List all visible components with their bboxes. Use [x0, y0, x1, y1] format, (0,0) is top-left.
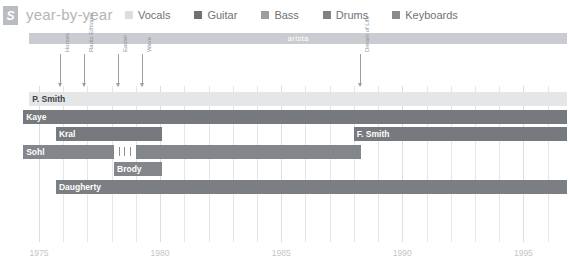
album-marker-label: Dream of Life — [364, 16, 370, 52]
album-marker-label: Radio Ethiopia — [88, 13, 94, 52]
legend-label: Bass — [274, 9, 298, 21]
bar-label-kral: Kral — [56, 127, 79, 141]
letter-s-badge-icon: S — [3, 6, 18, 25]
timeline-bar[interactable] — [29, 92, 567, 106]
timeline-bar[interactable] — [56, 180, 567, 194]
bar-label-daugherty: Daugherty — [56, 180, 104, 194]
album-marker-line — [142, 54, 143, 86]
axis-tick-label: 1990 — [393, 248, 412, 258]
bar-gap-ticks — [114, 145, 136, 159]
album-marker-line — [60, 54, 61, 86]
tick-mark-icon — [124, 147, 125, 156]
axis-tick-label: 1985 — [272, 248, 291, 258]
album-marker-line — [360, 54, 361, 86]
axis-tick-label: 1995 — [514, 248, 533, 258]
arrow-down-icon — [358, 83, 362, 87]
bar-label-brody: Brody — [114, 162, 145, 176]
axis-tick-label: 1980 — [151, 248, 170, 258]
album-marker-line — [118, 54, 119, 86]
legend-swatch-icon — [323, 11, 331, 19]
bar-label-kaye: Kaye — [23, 110, 49, 124]
arrow-down-icon — [58, 83, 62, 87]
label-band-arista: arista — [29, 33, 567, 44]
page-title: year-by-year — [26, 6, 113, 23]
tick-mark-icon — [130, 147, 131, 156]
legend-item-drums[interactable]: Drums — [323, 9, 368, 21]
legend-swatch-icon — [194, 11, 202, 19]
timeline-bar[interactable] — [136, 145, 361, 159]
tick-mark-icon — [119, 147, 120, 156]
legend-label: Guitar — [207, 9, 237, 21]
bar-label-psmith: P. Smith — [29, 92, 68, 106]
legend-item-keyboards[interactable]: Keyboards — [392, 9, 458, 21]
legend-label: Vocals — [138, 9, 170, 21]
timeline-bar[interactable] — [23, 110, 567, 124]
legend: VocalsGuitarBassDrumsKeyboards — [125, 9, 458, 21]
legend-item-bass[interactable]: Bass — [261, 9, 298, 21]
album-marker-label: Easter — [122, 35, 128, 52]
arrow-down-icon — [140, 83, 144, 87]
bar-label-sohl: Sohl — [23, 145, 47, 159]
arrow-down-icon — [82, 83, 86, 87]
legend-item-vocals[interactable]: Vocals — [125, 9, 170, 21]
x-axis: 19751980198519901995 — [22, 242, 567, 265]
legend-item-guitar[interactable]: Guitar — [194, 9, 237, 21]
bar-label-fsmith: F. Smith — [354, 127, 393, 141]
album-marker-label: Wave — [146, 37, 152, 52]
album-marker-line — [84, 54, 85, 86]
axis-tick-label: 1975 — [29, 248, 48, 258]
album-marker-label: Horses — [64, 33, 70, 52]
arrow-down-icon — [116, 83, 120, 87]
plot-area: aristaHorsesRadio EthiopiaEasterWaveDrea… — [22, 30, 567, 242]
legend-swatch-icon — [392, 11, 400, 19]
legend-swatch-icon — [261, 11, 269, 19]
legend-swatch-icon — [125, 11, 133, 19]
timeline-chart: aristaHorsesRadio EthiopiaEasterWaveDrea… — [0, 30, 583, 265]
legend-label: Keyboards — [405, 9, 458, 21]
